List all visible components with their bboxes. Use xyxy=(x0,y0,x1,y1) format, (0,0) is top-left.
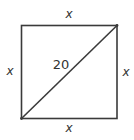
label-diagonal: 20 xyxy=(53,57,70,72)
label-bottom: x xyxy=(64,121,73,135)
square-diagram: x x x x 20 xyxy=(0,0,134,140)
diagonal xyxy=(22,26,118,119)
label-right: x xyxy=(121,65,130,79)
label-left: x xyxy=(5,64,14,78)
vertex-dot-top-right xyxy=(116,24,119,27)
vertex-dot-bottom-left xyxy=(20,117,23,120)
label-top: x xyxy=(64,7,73,21)
